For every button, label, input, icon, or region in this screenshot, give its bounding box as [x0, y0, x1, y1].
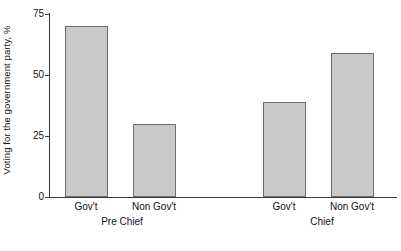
x-group-label-chief: Chief [272, 216, 372, 228]
y-tick-label-group: 75 50 25 0 [14, 0, 44, 251]
x-group-label-pre-chief: Pre Chief [72, 216, 172, 228]
y-axis-title: Voting for the government party, % [0, 0, 14, 200]
y-tick-label-75: 75 [18, 9, 44, 19]
y-tick-label-25: 25 [18, 131, 44, 141]
x-category-label-0: Gov't [55, 201, 117, 213]
x-category-label-1: Non Gov't [118, 201, 190, 213]
bar-chief-govt [263, 102, 306, 197]
x-category-label-3: Non Gov't [316, 201, 388, 213]
y-tick-label-50: 50 [18, 70, 44, 80]
bar-chief-non-govt [331, 53, 374, 197]
x-category-label-2: Gov't [253, 201, 315, 213]
bar-pre-chief-govt [65, 26, 108, 197]
x-axis-line [49, 197, 397, 198]
y-tick-label-0: 0 [18, 192, 44, 202]
bar-pre-chief-non-govt [133, 124, 176, 197]
bar-chart: Voting for the government party, % 75 50… [0, 0, 401, 251]
y-axis-line [49, 13, 50, 198]
